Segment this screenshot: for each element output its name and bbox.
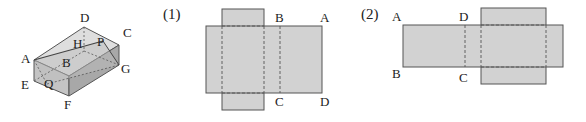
label-B: B [62,55,71,70]
net-2-label-D: D [459,9,468,24]
label-F: F [64,97,71,112]
net-1-label-D: D [320,94,329,109]
label-D: D [80,10,89,25]
net-2-label-B: B [392,66,401,81]
net-1-label-B: B [275,10,284,25]
label-H: H [73,36,82,51]
label-Q: Q [44,76,54,91]
figure-canvas: D C H P A B G E Q F (1) B A C D (2) A D [0,0,586,122]
cuboid-diagram: D C H P A B G E Q F [21,10,132,112]
net-2-label-A: A [392,9,402,24]
label-A: A [21,51,31,66]
net-2: (2) A D B C [361,6,563,85]
label-P: P [97,34,104,49]
net-1: (1) B A C D [163,6,330,110]
net-2-number: (2) [361,6,379,23]
net-1-number: (1) [163,6,181,23]
net-2-label-C: C [459,70,468,85]
label-G: G [121,61,130,76]
net-1-label-A: A [320,10,330,25]
label-C: C [123,25,132,40]
label-E: E [21,77,29,92]
net-1-label-C: C [275,94,284,109]
